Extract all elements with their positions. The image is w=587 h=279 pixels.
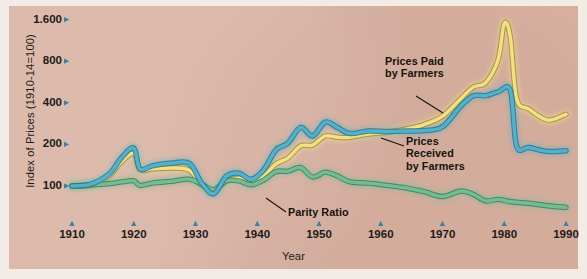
chart-figure: Index of Prices (1910-14=100) Year 10020…: [0, 0, 587, 279]
y-axis-title: Index of Prices (1910-14=100): [24, 26, 36, 196]
x-tick-marker: [316, 221, 321, 226]
x-tick-label: 1970: [413, 228, 473, 240]
x-tick-marker: [193, 221, 198, 226]
y-tick-label: 100: [18, 179, 62, 191]
x-tick-label: 1990: [536, 228, 587, 240]
x-tick-label: 1930: [166, 228, 226, 240]
annotation-prices-paid: Prices Paid by Farmers: [385, 55, 444, 80]
x-tick-marker: [378, 221, 383, 226]
x-tick-label: 1950: [289, 228, 349, 240]
x-tick-label: 1940: [227, 228, 287, 240]
x-tick-label: 1920: [104, 228, 164, 240]
annotation-prices-received: Prices Received by Farmers: [406, 135, 465, 172]
x-tick-marker: [255, 221, 260, 226]
y-tick-marker: [64, 17, 69, 22]
x-tick-marker: [131, 221, 136, 226]
x-tick-marker: [440, 221, 445, 226]
x-axis-title: Year: [0, 250, 587, 262]
annotation-parity-ratio: Parity Ratio: [288, 206, 349, 218]
series-halo-layer: [72, 22, 566, 207]
y-tick-label: 400: [18, 96, 62, 108]
leader-line-parity-ratio: [266, 198, 286, 212]
x-tick-marker: [563, 221, 568, 226]
x-tick-marker: [69, 221, 74, 226]
y-tick-label: 200: [18, 137, 62, 149]
x-tick-label: 1910: [42, 228, 102, 240]
leader-line-prices-paid: [416, 96, 443, 113]
y-tick-marker: [64, 59, 69, 64]
y-tick-marker: [64, 142, 69, 147]
y-tick-marker: [64, 100, 69, 105]
x-tick-marker: [502, 221, 507, 226]
x-tick-label: 1960: [351, 228, 411, 240]
y-tick-label: 800: [18, 54, 62, 66]
axis-tick-marks: [64, 17, 569, 226]
y-tick-label: 1.600: [18, 13, 62, 25]
leader-line-prices-received: [381, 138, 404, 146]
x-tick-label: 1980: [474, 228, 534, 240]
